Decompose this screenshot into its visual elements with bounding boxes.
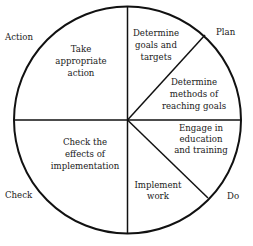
segment-text-line: reaching goals — [162, 101, 226, 111]
phase-label-plan: Plan — [216, 27, 236, 37]
segment-text-line: and training — [174, 145, 228, 155]
segment-text-line: work — [147, 191, 170, 201]
segment-text-line: methods of — [170, 89, 219, 99]
segment-text-line: action — [68, 68, 95, 78]
segment-text-line: education — [180, 134, 223, 144]
segment-text-line: appropriate — [55, 56, 106, 66]
segment-text-line: Determine — [171, 77, 217, 87]
segment-text-line: Check the — [63, 137, 107, 147]
segment-text-line: Implement — [134, 180, 182, 190]
phase-label-action: Action — [4, 32, 33, 42]
segment-text-line: Take — [71, 44, 91, 54]
segment-text-line: implementation — [51, 161, 120, 171]
phase-label-check: Check — [5, 190, 33, 200]
segment-engage-education: Engage in education and training — [174, 123, 228, 155]
segment-determine-methods: Determine methods of reaching goals — [162, 77, 226, 111]
phase-label-do: Do — [227, 191, 239, 201]
segment-text-line: effects of — [65, 149, 106, 159]
segment-text-line: targets — [140, 52, 171, 62]
segment-text-line: Determine — [133, 28, 179, 38]
segment-text-line: Engage in — [179, 123, 223, 133]
pdca-cycle-diagram: Action Plan Do Check Take appropriate ac… — [0, 0, 253, 246]
segment-text-line: goals and — [135, 40, 177, 50]
